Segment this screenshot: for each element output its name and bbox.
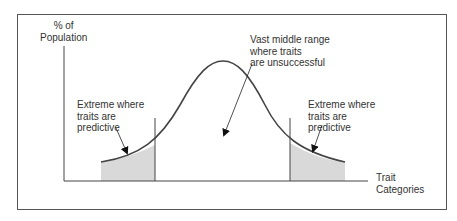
y-axis-label: % of Population bbox=[40, 20, 87, 43]
left-shaded-region bbox=[101, 145, 155, 181]
x-axis-label: Trait Categories bbox=[376, 172, 424, 195]
middle-range-label: Vast middle range where traits are unsuc… bbox=[250, 34, 330, 69]
right-extreme-label: Extreme where traits are predictive bbox=[308, 99, 375, 134]
right-shaded-region bbox=[290, 143, 345, 181]
left-extreme-label: Extreme where traits are predictive bbox=[77, 99, 144, 134]
middle-arrow bbox=[224, 64, 252, 135]
